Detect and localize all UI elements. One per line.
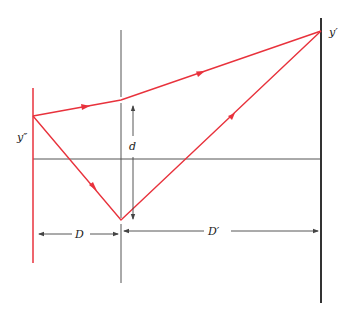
lower-ray (33, 31, 321, 220)
label-y-double-prime: y″ (16, 131, 28, 144)
ray-arrow-icon (81, 104, 90, 110)
optics-diagram: d D D′ y″ y′ (0, 0, 351, 314)
label-d: d (129, 140, 136, 153)
label-y-prime: y′ (328, 26, 338, 39)
label-D: D (74, 228, 84, 241)
label-D-prime: D′ (207, 225, 220, 238)
ray-arrow-icon (196, 71, 205, 77)
ray-arrow-icon (228, 113, 235, 120)
upper-ray (33, 31, 321, 116)
